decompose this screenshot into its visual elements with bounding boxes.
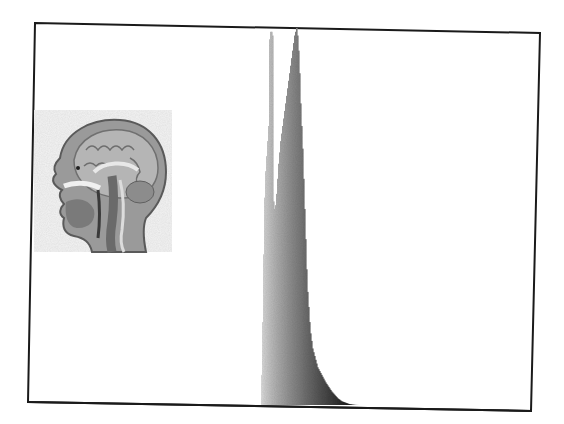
eye-marker [76, 166, 80, 170]
airway [98, 190, 100, 238]
mri-head-thumbnail [34, 110, 172, 252]
histogram-figure [0, 0, 564, 424]
brainstem [111, 176, 114, 252]
cerebellum [126, 181, 154, 203]
